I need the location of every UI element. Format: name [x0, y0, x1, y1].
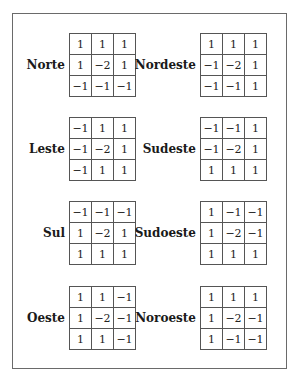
mask-sudoeste: Sudoeste1−1−11−2−1111	[135, 201, 267, 265]
mask-label: Sudeste	[143, 142, 196, 156]
matrix-cell: −2	[92, 308, 114, 329]
matrix-row: 1−2−1	[201, 308, 267, 329]
matrix-cell: 1	[245, 287, 267, 308]
matrix-cell: 1	[223, 287, 245, 308]
matrix-cell: 1	[70, 34, 92, 55]
matrix-row: −1−11	[201, 118, 267, 139]
matrix-cell: 1	[245, 139, 267, 160]
matrix-row: −1−1−1	[70, 76, 136, 97]
matrix-cell: 1	[201, 34, 223, 55]
mask-label: Norte	[27, 58, 65, 72]
matrix-cell: −1	[92, 76, 114, 97]
matrix-row: 11−1	[70, 329, 136, 350]
matrix-cell: 1	[201, 244, 223, 265]
mask-leste: Leste−111−1−21−111	[29, 117, 136, 181]
mask-matrix: −111−1−21−111	[69, 117, 136, 181]
matrix-row: 111	[201, 34, 267, 55]
matrix-row: −1−21	[70, 139, 136, 160]
matrix-cell: −1	[223, 329, 245, 350]
matrix-cell: 1	[245, 34, 267, 55]
matrix-row: −111	[70, 118, 136, 139]
matrix-cell: −2	[223, 308, 245, 329]
matrix-cell: 1	[201, 202, 223, 223]
matrix-cell: −1	[201, 76, 223, 97]
matrix-cell: −1	[70, 76, 92, 97]
matrix-row: 111	[70, 34, 136, 55]
mask-matrix: 1111−21−1−1−1	[69, 33, 136, 97]
matrix-cell: 1	[114, 244, 136, 265]
matrix-cell: 1	[70, 329, 92, 350]
matrix-cell: −2	[92, 139, 114, 160]
matrix-row: 1−21	[70, 223, 136, 244]
matrix-cell: 1	[70, 244, 92, 265]
matrix-cell: 1	[114, 223, 136, 244]
matrix-cell: 1	[70, 287, 92, 308]
mask-label: Nordeste	[135, 58, 196, 72]
matrix-cell: −1	[70, 118, 92, 139]
matrix-cell: 1	[223, 244, 245, 265]
matrix-cell: 1	[92, 118, 114, 139]
matrix-row: −1−11	[201, 76, 267, 97]
mask-matrix: 111−1−21−1−11	[200, 33, 267, 97]
matrix-cell: 1	[114, 55, 136, 76]
matrix-cell: −1	[70, 202, 92, 223]
matrix-cell: 1	[70, 55, 92, 76]
matrix-cell: 1	[114, 139, 136, 160]
matrix-cell: −2	[92, 223, 114, 244]
matrix-cell: 1	[245, 55, 267, 76]
matrix-cell: −1	[201, 55, 223, 76]
matrix-cell: 1	[114, 118, 136, 139]
matrix-cell: 1	[223, 34, 245, 55]
mask-label: Oeste	[27, 311, 65, 325]
matrix-cell: −1	[114, 308, 136, 329]
mask-norte: Norte1111−21−1−1−1	[27, 33, 136, 97]
mask-label: Noroeste	[135, 311, 196, 325]
matrix-row: −1−21	[201, 55, 267, 76]
matrix-cell: −1	[245, 202, 267, 223]
matrix-cell: −1	[201, 118, 223, 139]
matrix-cell: −2	[223, 139, 245, 160]
matrix-row: 1−1−1	[201, 329, 267, 350]
matrix-cell: 1	[92, 244, 114, 265]
matrix-cell: 1	[92, 34, 114, 55]
matrix-cell: −1	[114, 76, 136, 97]
mask-noroeste: Noroeste1111−2−11−1−1	[135, 286, 267, 350]
matrix-cell: 1	[201, 223, 223, 244]
matrix-row: −1−21	[201, 139, 267, 160]
matrix-row: 111	[201, 287, 267, 308]
matrix-cell: −1	[201, 139, 223, 160]
matrix-cell: 1	[245, 118, 267, 139]
matrix-cell: −1	[70, 160, 92, 181]
matrix-cell: −2	[223, 223, 245, 244]
mask-matrix: −1−1−11−21111	[69, 201, 136, 265]
matrix-row: −111	[70, 160, 136, 181]
matrix-cell: 1	[70, 223, 92, 244]
matrix-cell: −1	[92, 202, 114, 223]
matrix-cell: −1	[114, 287, 136, 308]
matrix-row: 111	[70, 244, 136, 265]
matrix-row: 1−2−1	[201, 223, 267, 244]
mask-matrix: 1111−2−11−1−1	[200, 286, 267, 350]
mask-matrix: −1−11−1−21111	[200, 117, 267, 181]
matrix-cell: −1	[245, 329, 267, 350]
matrix-cell: −1	[223, 202, 245, 223]
matrix-cell: −2	[223, 55, 245, 76]
mask-nordeste: Nordeste111−1−21−1−11	[135, 33, 267, 97]
mask-matrix: 11−11−2−111−1	[69, 286, 136, 350]
matrix-cell: −2	[92, 55, 114, 76]
matrix-cell: −1	[245, 308, 267, 329]
matrix-cell: 1	[70, 308, 92, 329]
matrix-row: 1−2−1	[70, 308, 136, 329]
matrix-cell: 1	[92, 160, 114, 181]
matrix-cell: 1	[201, 308, 223, 329]
matrix-cell: 1	[201, 329, 223, 350]
matrix-cell: −1	[114, 329, 136, 350]
matrix-cell: 1	[114, 160, 136, 181]
matrix-cell: 1	[201, 287, 223, 308]
matrix-cell: 1	[201, 160, 223, 181]
mask-sudeste: Sudeste−1−11−1−21111	[143, 117, 267, 181]
matrix-cell: 1	[245, 244, 267, 265]
mask-label: Leste	[29, 142, 65, 156]
matrix-cell: −1	[223, 118, 245, 139]
mask-label: Sul	[43, 226, 65, 240]
